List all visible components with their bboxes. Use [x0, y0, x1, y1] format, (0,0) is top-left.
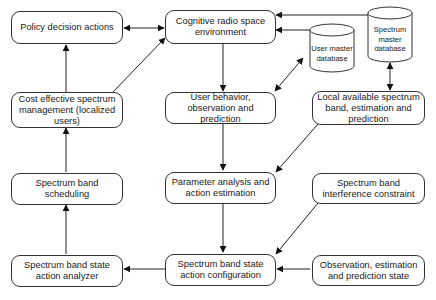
edge-cost-cognitive	[113, 38, 165, 92]
node-policy-decision-actions: Policy decision actions	[11, 11, 123, 44]
edge-usermaster-userbehavior	[275, 58, 303, 91]
node-local-available-spectrum: Local available spectrum band, estimatio…	[312, 91, 425, 125]
edge-interference-configuration	[276, 203, 318, 254]
edge-localspectrum-parameter	[276, 124, 318, 172]
node-parameter-analysis: Parameter analysis and action estimation	[165, 172, 276, 204]
spectrum-master-database-label: Spectrum master database	[368, 25, 412, 54]
user-master-database-label: User master database	[310, 44, 354, 63]
node-spectrum-band-state-action-configuration: Spectrum band state action configuration	[165, 254, 276, 286]
node-cognitive-radio-space-environment: Cognitive radio space environment	[165, 10, 276, 44]
node-observation-estimation-prediction: Observation, estimation and prediction s…	[312, 255, 425, 286]
node-spectrum-band-scheduling: Spectrum band scheduling	[11, 173, 123, 205]
node-cost-effective-spectrum-management: Cost effective spectrum management (loca…	[11, 92, 123, 128]
node-spectrum-band-interference: Spectrum band interference constraint	[312, 173, 425, 204]
node-spectrum-band-state-action-analyzer: Spectrum band state action analyzer	[11, 255, 123, 287]
node-user-behavior: User behavior, observation and predictio…	[165, 92, 276, 124]
